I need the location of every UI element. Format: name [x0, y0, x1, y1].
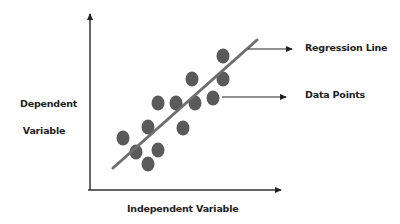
- regression-line-label: Regression Line: [305, 42, 387, 53]
- y-axis-label-line1: Dependent: [20, 98, 68, 109]
- data-point: [152, 96, 165, 111]
- data-point: [207, 91, 220, 106]
- scatter-diagram: [0, 0, 400, 224]
- callout-arrows: [222, 49, 292, 97]
- x-axis-label: Independent Variable: [127, 203, 239, 214]
- data-points-label: Data Points: [305, 89, 365, 100]
- data-point: [152, 143, 165, 158]
- regression-line-stroke: [113, 40, 257, 168]
- data-point: [186, 72, 199, 87]
- data-point: [142, 157, 155, 172]
- data-point: [177, 121, 190, 136]
- data-points: [117, 49, 230, 172]
- regression-line: [113, 40, 257, 168]
- data-point: [217, 49, 230, 64]
- y-axis-label-line2: Variable: [20, 125, 68, 136]
- data-point: [117, 131, 130, 146]
